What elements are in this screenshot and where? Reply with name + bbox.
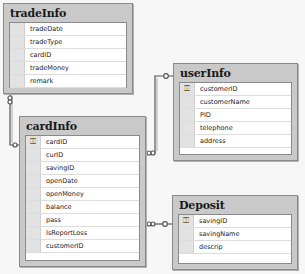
column-name: tradeMoney [30,64,69,72]
column-row[interactable]: ⚿savingID [179,215,291,228]
column-list: tradeDate tradeType cardID tradeMoney re… [9,22,127,88]
row-selector [26,227,41,239]
column-name: pass [46,216,61,224]
relationship-cardinfo-deposit [146,222,172,227]
primary-key-icon: ⚿ [179,215,194,227]
table-title: cardInfo [26,120,77,133]
row-selector [180,135,195,147]
column-row[interactable]: tradeMoney [10,62,126,75]
column-row[interactable]: savingName [179,228,291,241]
column-name: savingID [199,217,227,225]
column-row[interactable]: savingID [26,162,139,175]
table-title: tradeInfo [10,7,66,20]
row-selector [26,201,41,213]
row-selector [180,122,195,134]
column-row[interactable]: remark [10,75,126,88]
row-selector [179,241,194,253]
column-name: telephone [200,124,233,132]
column-name: remark [30,77,53,85]
column-name: customerID [200,85,238,93]
row-selector [26,149,41,161]
table-tradeinfo[interactable]: tradeInfo tradeDate tradeType cardID tra… [3,3,133,94]
primary-key-icon: ⚿ [180,83,195,95]
row-selector [10,62,25,74]
row-selector [26,240,41,252]
column-name: cardID [46,138,67,146]
column-name: balance [46,203,72,211]
row-selector [10,75,25,87]
column-row[interactable]: IsReportLoss [26,227,139,240]
column-name: savingID [46,164,74,172]
column-row[interactable]: pass [26,214,139,227]
column-row[interactable]: ⚿cardID [26,136,139,149]
column-row[interactable]: customerName [180,96,291,109]
column-row[interactable]: tradeType [10,36,126,49]
column-row[interactable]: balance [26,201,139,214]
column-name: curID [46,151,63,159]
row-selector [10,23,25,35]
row-selector [180,109,195,121]
column-row[interactable]: descrip [179,241,291,254]
column-name: tradeDate [30,25,63,33]
column-list: ⚿cardID curID savingID openDate openMone… [25,135,140,261]
table-deposit[interactable]: Deposit ⚿savingID savingName descrip [172,195,298,270]
table-title: userInfo [180,67,231,80]
column-name: savingName [199,230,239,238]
row-selector [26,175,41,187]
column-row[interactable]: curID [26,149,139,162]
column-row[interactable]: telephone [180,122,291,135]
column-row[interactable]: tradeDate [10,23,126,36]
column-row[interactable]: openMoney [26,188,139,201]
column-row[interactable]: PID [180,109,291,122]
column-list: ⚿customerID customerName PID telephone a… [179,82,292,155]
column-row[interactable]: address [180,135,291,148]
relationship-tradeinfo-cardinfo [8,94,19,147]
column-row[interactable]: openDate [26,175,139,188]
table-cardinfo[interactable]: cardInfo ⚿cardID curID savingID openDate… [19,116,146,267]
column-list: ⚿savingID savingName descrip [178,214,292,264]
column-name: cardID [30,51,51,59]
column-name: PID [200,111,211,119]
row-selector [26,214,41,226]
column-name: descrip [199,243,223,251]
column-name: customerID [46,242,84,250]
column-name: customerName [200,98,250,106]
primary-key-icon: ⚿ [26,136,41,148]
row-selector [180,96,195,108]
column-name: IsReportLoss [46,229,87,237]
table-title: Deposit [179,199,225,212]
row-selector [26,162,41,174]
column-name: openDate [46,177,78,185]
row-selector [179,228,194,240]
column-name: openMoney [46,190,84,198]
column-name: tradeType [30,38,62,46]
column-name: address [200,137,226,145]
row-selector [10,49,25,61]
table-userinfo[interactable]: userInfo ⚿customerID customerName PID te… [173,63,298,161]
column-row[interactable]: ⚿customerID [180,83,291,96]
column-row[interactable]: cardID [10,49,126,62]
row-selector [26,188,41,200]
column-row[interactable]: customerID [26,240,139,253]
relationship-cardinfo-userinfo [146,74,173,155]
row-selector [10,36,25,48]
